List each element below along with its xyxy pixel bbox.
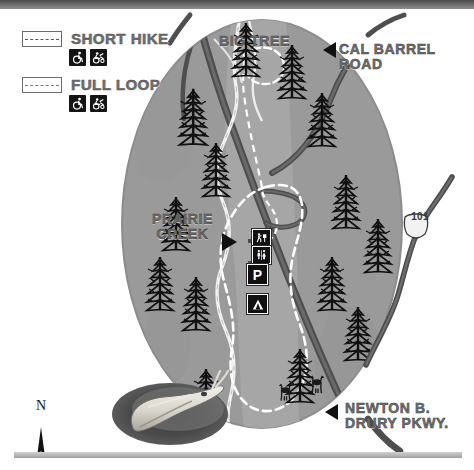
bottom-rail [14, 452, 462, 458]
highway-101-shield: 101 [404, 207, 436, 228]
legend-swatch-full-loop [22, 77, 62, 93]
map-page: SHORT HIKE [0, 0, 474, 470]
wheelchair-accessible-icon [69, 49, 86, 66]
legend-label-full-loop: FULL LOOP [71, 76, 160, 93]
north-label: N [30, 398, 52, 414]
legend-label-short-hike: SHORT HIKE [71, 30, 169, 47]
trailhead-icon [252, 229, 271, 247]
legend-row-short-hike: SHORT HIKE [22, 30, 192, 47]
top-rail [0, 0, 474, 9]
wheelchair-accessible-icon [69, 95, 86, 112]
north-arrow: N [30, 398, 56, 450]
newton-drury-arrow-icon [325, 404, 338, 420]
parking-letter: P [253, 268, 262, 282]
restroom-icon [252, 246, 271, 264]
legend-swatch-short-hike [22, 31, 62, 47]
parking-icon: P [247, 264, 268, 285]
assisted-wheelchair-icon [90, 49, 107, 66]
campground-icon [247, 294, 268, 314]
legend-icons-full-loop [69, 95, 192, 112]
legend-row-full-loop: FULL LOOP [22, 76, 192, 93]
legend: SHORT HIKE [22, 30, 192, 122]
legend-icons-short-hike [69, 49, 192, 66]
assisted-wheelchair-icon [90, 95, 107, 112]
prairie-creek-arrow-icon [222, 233, 237, 251]
highway-shield-number: 101 [404, 211, 436, 222]
cal-barrel-arrow-icon [323, 42, 336, 58]
